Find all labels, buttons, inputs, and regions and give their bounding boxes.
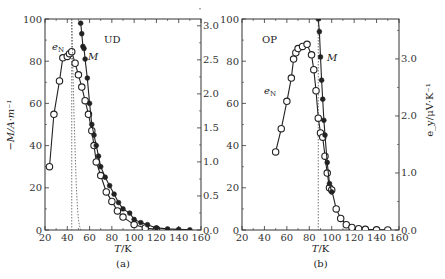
x-tick-label: 80 [303, 232, 316, 243]
data-point-filled [83, 57, 88, 62]
data-point-filled [323, 133, 328, 138]
y-right-tick-label: 3.0 [401, 53, 417, 64]
y-left-tick-label: 20 [226, 182, 239, 193]
data-point-open [311, 66, 317, 72]
data-point-filled [98, 164, 103, 169]
data-point-filled [317, 29, 322, 34]
data-point-open [284, 98, 290, 104]
y-left-tick-label: 0 [233, 225, 239, 236]
y-right-tick-label: 1.0 [401, 167, 417, 178]
series-label-en: eN [264, 85, 276, 98]
data-point-open [313, 88, 319, 94]
x-tick-label: 80 [105, 232, 118, 243]
data-point-filled [325, 160, 330, 165]
panel-tag: UD [104, 34, 120, 45]
y-right-tick-label: 1.0 [203, 156, 219, 167]
series-line-e_n [50, 52, 157, 230]
x-tick-label: 40 [258, 232, 271, 243]
data-point-open [93, 159, 99, 165]
data-point-filled [316, 17, 321, 22]
data-point-open [103, 189, 109, 195]
figure: 204060801001201401600204060801000.00.51.… [0, 0, 445, 279]
data-point-filled [85, 76, 90, 81]
data-point-open [75, 72, 81, 78]
series-line-m [318, 19, 331, 192]
data-point-open [315, 115, 321, 121]
data-point-filled [145, 222, 150, 227]
data-point-open [324, 170, 330, 176]
data-point-open [337, 215, 343, 221]
y-left-tick-label: 80 [226, 56, 239, 67]
data-point-filled [132, 217, 137, 222]
data-point-open [56, 78, 62, 84]
x-tick-label: 120 [345, 232, 364, 243]
y-right-tick-label: 0.5 [203, 190, 219, 201]
data-point-open [355, 226, 361, 232]
x-tick-label: 100 [322, 232, 341, 243]
y-left-tick-label: 20 [29, 182, 42, 193]
panel-caption: (b) [313, 258, 327, 269]
data-point-open [304, 41, 310, 47]
y-left-tick-label: 60 [226, 98, 239, 109]
x-tick-label: 60 [280, 232, 293, 243]
data-point-filled [121, 207, 126, 212]
data-point-open [272, 149, 278, 155]
y-left-tick-label: 80 [29, 56, 42, 67]
data-point-filled [78, 21, 83, 26]
y-left-axis-label: −M/A·m⁻¹ [5, 99, 16, 150]
data-point-filled [318, 55, 323, 60]
x-tick-label: 140 [367, 232, 386, 243]
data-point-open [69, 48, 75, 54]
data-point-open [131, 221, 137, 227]
data-point-filled [107, 183, 112, 188]
y-right-axis-label: e_y/μV·K⁻¹ [424, 83, 436, 137]
data-point-filled [96, 154, 101, 159]
y-left-tick-label: 40 [226, 140, 239, 151]
x-axis-label: T/K [114, 243, 132, 254]
x-tick-label: 120 [147, 232, 166, 243]
data-point-open [79, 84, 85, 90]
x-tick-label: 60 [83, 232, 96, 243]
y-right-tick-label: 2.0 [401, 110, 417, 121]
y-left-tick-label: 100 [220, 14, 239, 25]
series-line-e_n [276, 44, 388, 230]
data-point-filled [327, 181, 332, 186]
data-point-filled [94, 143, 99, 148]
y-right-tick-label: 1.5 [203, 122, 219, 133]
y-right-tick-label: 3.0 [203, 20, 219, 31]
data-point-filled [320, 97, 325, 102]
series-label-m: M [87, 51, 99, 62]
data-point-filled [154, 225, 159, 230]
series-label-m: M [326, 52, 338, 63]
x-tick-label: 100 [125, 232, 144, 243]
data-point-filled [329, 190, 334, 195]
data-point-filled [165, 227, 170, 232]
y-left-tick-label: 0 [36, 225, 42, 236]
panel-b-chart: 204060801001201401600204060801000.01.02.… [220, 14, 417, 270]
y-left-tick-label: 60 [29, 98, 42, 109]
panel-caption: (a) [116, 258, 130, 269]
data-point-filled [87, 101, 92, 106]
x-tick-label: 40 [61, 232, 74, 243]
data-point-open [51, 111, 57, 117]
series-label-en: eN [52, 41, 64, 54]
data-point-filled [116, 200, 121, 205]
x-axis-label: T/K [312, 243, 330, 254]
data-point-filled [321, 118, 326, 123]
y-right-tick-label: 2.5 [203, 54, 219, 65]
data-point-filled [103, 175, 108, 180]
y-left-tick-label: 100 [23, 14, 42, 25]
panel-tag: OP [262, 34, 277, 45]
data-point-filled [127, 211, 132, 216]
data-point-filled [92, 133, 97, 138]
data-point-filled [138, 220, 143, 225]
data-point-open [349, 224, 355, 230]
data-point-open [114, 208, 120, 214]
y-right-tick-label: 0.0 [203, 225, 219, 236]
data-point-open [288, 75, 294, 81]
data-point-open [278, 126, 284, 132]
data-point-filled [89, 122, 94, 127]
data-point-filled [79, 31, 84, 36]
data-point-open [308, 52, 314, 58]
data-point-open [46, 164, 52, 170]
